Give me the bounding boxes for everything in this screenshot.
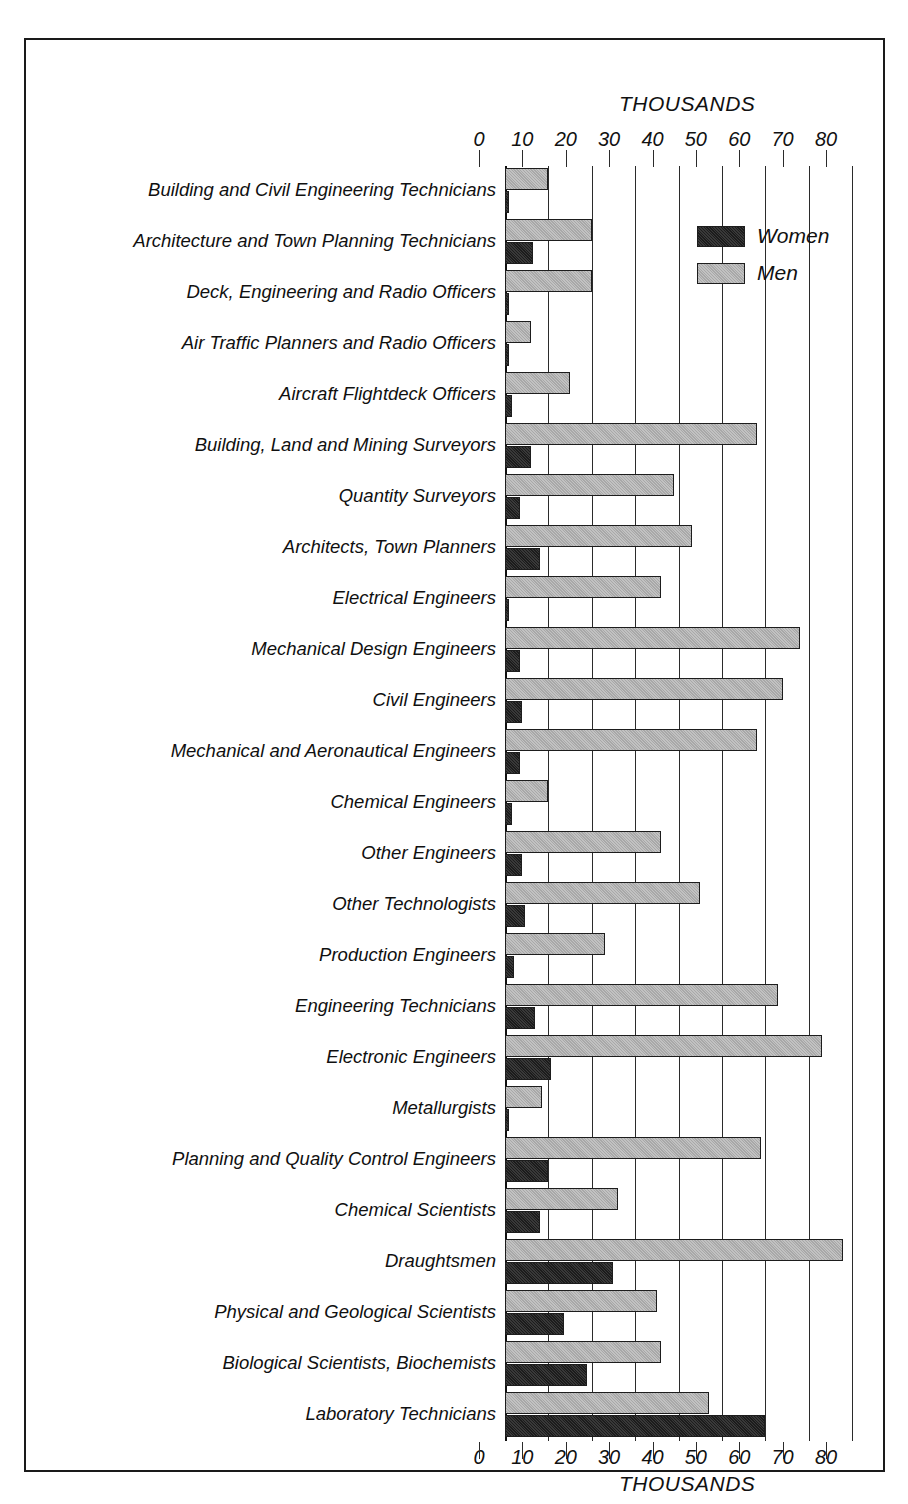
bar-men[interactable] — [505, 780, 548, 802]
bar-women[interactable] — [505, 905, 525, 927]
bar-women[interactable] — [505, 548, 540, 570]
bar-women[interactable] — [505, 1160, 548, 1182]
bar-women[interactable] — [505, 242, 533, 264]
bar-men[interactable] — [505, 882, 700, 904]
bar-women[interactable] — [505, 1058, 551, 1080]
xtick-mark-bot-10 — [522, 1442, 523, 1459]
bar-row — [505, 472, 852, 523]
xtick-mark-top-40 — [653, 150, 654, 167]
category-label: Electrical Engineers — [46, 588, 496, 608]
bar-row — [505, 1084, 852, 1135]
bar-row — [505, 1033, 852, 1084]
xtick-mark-bot-20 — [566, 1442, 567, 1459]
xtick-label-top-0: 0 — [473, 128, 484, 151]
plot-area — [505, 166, 852, 1441]
category-label: Laboratory Technicians — [46, 1404, 496, 1424]
bar-men[interactable] — [505, 321, 531, 343]
bar-women[interactable] — [505, 1313, 564, 1335]
category-label: Planning and Quality Control Engineers — [46, 1149, 496, 1169]
category-label: Other Technologists — [46, 894, 496, 914]
bar-women[interactable] — [505, 956, 514, 978]
bar-men[interactable] — [505, 576, 661, 598]
category-label: Quantity Surveyors — [46, 486, 496, 506]
bar-men[interactable] — [505, 984, 778, 1006]
category-labels: Building and Civil Engineering Technicia… — [46, 166, 496, 1441]
bar-women[interactable] — [505, 395, 512, 417]
xtick-mark-top-20 — [566, 150, 567, 167]
bar-men[interactable] — [505, 168, 548, 190]
bar-women[interactable] — [505, 701, 522, 723]
legend-label-women: Women — [757, 224, 829, 248]
bar-women[interactable] — [505, 1007, 535, 1029]
xtick-mark-bot-30 — [609, 1442, 610, 1459]
bar-women[interactable] — [505, 1364, 587, 1386]
category-label: Mechanical and Aeronautical Engineers — [46, 741, 496, 761]
gridline-80 — [852, 166, 853, 1441]
bar-women[interactable] — [505, 1415, 765, 1437]
bar-row — [505, 676, 852, 727]
category-label: Physical and Geological Scientists — [46, 1302, 496, 1322]
bar-women[interactable] — [505, 1211, 540, 1233]
bar-men[interactable] — [505, 270, 592, 292]
legend-label-men: Men — [757, 261, 798, 285]
bar-men[interactable] — [505, 219, 592, 241]
category-label: Chemical Engineers — [46, 792, 496, 812]
category-label: Electronic Engineers — [46, 1047, 496, 1067]
xtick-label-top-50: 50 — [685, 128, 707, 151]
bar-women[interactable] — [505, 650, 520, 672]
bar-row — [505, 574, 852, 625]
xtick-mark-top-0 — [479, 150, 480, 167]
category-label: Draughtsmen — [46, 1251, 496, 1271]
xtick-mark-bot-0 — [479, 1442, 480, 1459]
bar-women[interactable] — [505, 191, 509, 213]
bar-men[interactable] — [505, 1239, 843, 1261]
xtick-mark-bot-70 — [783, 1442, 784, 1459]
bar-women[interactable] — [505, 752, 520, 774]
xtick-label-top-10: 10 — [511, 128, 533, 151]
bar-men[interactable] — [505, 1035, 822, 1057]
xtick-mark-top-80 — [826, 150, 827, 167]
xtick-label-top-30: 30 — [598, 128, 620, 151]
category-label: Biological Scientists, Biochemists — [46, 1353, 496, 1373]
bar-row — [505, 829, 852, 880]
bar-men[interactable] — [505, 1341, 661, 1363]
chart-frame: THOUSANDS THOUSANDS 00101020203030404050… — [24, 38, 885, 1472]
bar-men[interactable] — [505, 525, 692, 547]
bar-row — [505, 880, 852, 931]
bar-women[interactable] — [505, 497, 520, 519]
category-label: Building, Land and Mining Surveyors — [46, 435, 496, 455]
category-label: Deck, Engineering and Radio Officers — [46, 282, 496, 302]
bar-men[interactable] — [505, 933, 605, 955]
bar-men[interactable] — [505, 423, 757, 445]
bar-row — [505, 1237, 852, 1288]
bar-women[interactable] — [505, 446, 531, 468]
bar-men[interactable] — [505, 1392, 709, 1414]
bar-row — [505, 370, 852, 421]
women-swatch-icon — [697, 226, 745, 247]
category-label: Chemical Scientists — [46, 1200, 496, 1220]
bar-women[interactable] — [505, 599, 509, 621]
xtick-mark-top-70 — [783, 150, 784, 167]
bar-row — [505, 523, 852, 574]
category-label: Air Traffic Planners and Radio Officers — [46, 333, 496, 353]
bar-men[interactable] — [505, 474, 674, 496]
bar-men[interactable] — [505, 1086, 542, 1108]
bar-men[interactable] — [505, 1137, 761, 1159]
bar-women[interactable] — [505, 1109, 509, 1131]
xtick-label-top-70: 70 — [772, 128, 794, 151]
bar-women[interactable] — [505, 803, 512, 825]
bar-men[interactable] — [505, 372, 570, 394]
bar-men[interactable] — [505, 729, 757, 751]
bar-women[interactable] — [505, 1262, 613, 1284]
category-label: Building and Civil Engineering Technicia… — [46, 180, 496, 200]
bar-men[interactable] — [505, 627, 800, 649]
bar-women[interactable] — [505, 854, 522, 876]
bar-women[interactable] — [505, 344, 509, 366]
bar-men[interactable] — [505, 1290, 657, 1312]
bar-women[interactable] — [505, 293, 509, 315]
bar-men[interactable] — [505, 678, 783, 700]
bar-men[interactable] — [505, 1188, 618, 1210]
bar-men[interactable] — [505, 831, 661, 853]
chart-legend: Women Men — [697, 226, 857, 288]
bar-row — [505, 319, 852, 370]
